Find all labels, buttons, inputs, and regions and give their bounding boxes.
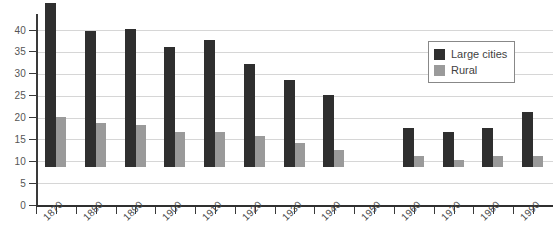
y-axis-tick-mark bbox=[29, 73, 36, 74]
y-axis-tick: 0 bbox=[20, 198, 36, 212]
bars-layer bbox=[36, 0, 553, 207]
y-axis-tick-label: 0 bbox=[20, 200, 29, 211]
y-axis-tick: 15 bbox=[14, 132, 36, 146]
y-axis-tick-label: 10 bbox=[14, 156, 29, 167]
bar-rural bbox=[215, 132, 225, 167]
bar-group bbox=[443, 0, 464, 167]
bar-large-cities bbox=[125, 29, 136, 167]
y-axis-tick-mark bbox=[29, 51, 36, 52]
bar-group bbox=[323, 0, 344, 167]
bar-group bbox=[403, 0, 424, 167]
bar-group bbox=[125, 0, 146, 167]
bar-large-cities bbox=[284, 80, 295, 168]
y-axis-tick-label: 20 bbox=[14, 112, 29, 123]
bar-group bbox=[522, 0, 543, 167]
y-axis-tick-label: 15 bbox=[14, 134, 29, 145]
bar-rural bbox=[493, 156, 503, 167]
bar-group bbox=[284, 0, 305, 167]
y-axis-tick-label: 35 bbox=[14, 46, 29, 57]
legend-swatch-icon bbox=[434, 65, 445, 76]
y-axis-tick: 25 bbox=[14, 89, 36, 103]
bar-large-cities bbox=[244, 64, 255, 167]
y-axis-tick-mark bbox=[29, 30, 36, 31]
bar-large-cities bbox=[164, 47, 175, 167]
bar-large-cities bbox=[323, 95, 334, 167]
bar-large-cities bbox=[85, 31, 96, 167]
y-axis-tick-label: 25 bbox=[14, 90, 29, 101]
y-axis-tick: 20 bbox=[14, 111, 36, 125]
bar-group bbox=[363, 0, 384, 167]
bar-group bbox=[85, 0, 106, 167]
bar-rural bbox=[56, 117, 66, 167]
y-axis-tick-label: 40 bbox=[14, 25, 29, 36]
bar-large-cities bbox=[204, 40, 215, 167]
bar-rural bbox=[175, 132, 185, 167]
legend-item-label: Rural bbox=[451, 64, 477, 76]
y-axis-tick: 35 bbox=[14, 45, 36, 59]
y-axis-tick: 5 bbox=[20, 176, 36, 190]
bar-rural bbox=[334, 150, 344, 168]
y-axis-tick-mark bbox=[29, 95, 36, 96]
bar-rural bbox=[414, 156, 424, 167]
bar-rural bbox=[295, 143, 305, 167]
bar-chart: 0510152025303540 18701880189019001910192… bbox=[0, 0, 553, 245]
bar-large-cities bbox=[522, 112, 533, 167]
y-axis: 0510152025303540 bbox=[0, 0, 36, 245]
legend-item-large-cities[interactable]: Large cities bbox=[434, 46, 507, 62]
y-axis-tick: 10 bbox=[14, 154, 36, 168]
y-axis-tick-label: 5 bbox=[20, 178, 29, 189]
bar-large-cities bbox=[482, 128, 493, 167]
bar-large-cities bbox=[403, 128, 414, 167]
y-axis-tick-mark bbox=[29, 183, 36, 184]
bar-large-cities bbox=[443, 132, 454, 167]
bar-group bbox=[164, 0, 185, 167]
bar-rural bbox=[454, 160, 464, 167]
y-axis-tick: 30 bbox=[14, 67, 36, 81]
bar-rural bbox=[533, 156, 543, 167]
y-axis-tick-mark bbox=[29, 117, 36, 118]
x-axis: 1870188018901900191019201930194019501960… bbox=[36, 207, 553, 245]
bar-rural bbox=[255, 136, 265, 167]
y-axis-tick-mark bbox=[29, 161, 36, 162]
bar-rural bbox=[96, 123, 106, 167]
y-axis-tick: 40 bbox=[14, 23, 36, 37]
legend-swatch-icon bbox=[434, 49, 445, 60]
y-axis-tick-label: 30 bbox=[14, 68, 29, 79]
bar-group bbox=[482, 0, 503, 167]
bar-group bbox=[244, 0, 265, 167]
bar-group bbox=[45, 0, 66, 167]
bar-group bbox=[204, 0, 225, 167]
y-axis-tick-mark bbox=[29, 205, 36, 206]
bar-rural bbox=[136, 125, 146, 167]
y-axis-tick-mark bbox=[29, 139, 36, 140]
bar-large-cities bbox=[45, 3, 56, 167]
legend-item-rural[interactable]: Rural bbox=[434, 62, 507, 78]
legend-item-label: Large cities bbox=[451, 48, 507, 60]
legend: Large cities Rural bbox=[428, 41, 515, 83]
